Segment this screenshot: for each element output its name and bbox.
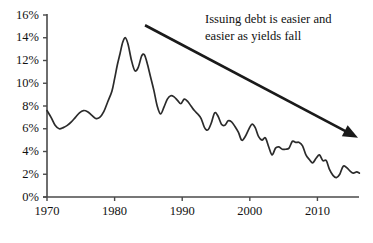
x-axis-tick-label: 1970 <box>17 205 77 218</box>
x-axis-tick-label: 2010 <box>287 205 347 218</box>
y-axis-tick-label: 14% <box>0 31 39 44</box>
annotation-label: Issuing debt is easier and easier as yie… <box>205 11 373 44</box>
annotation-line-2: easier as yields fall <box>205 28 373 45</box>
y-axis-tick-label: 16% <box>0 9 39 22</box>
x-axis-tick-label: 2000 <box>220 205 280 218</box>
x-axis-tick-label: 1980 <box>85 205 145 218</box>
y-axis-tick-label: 10% <box>0 77 39 90</box>
y-axis-tick-label: 8% <box>0 100 39 113</box>
y-axis-tick-label: 4% <box>0 145 39 158</box>
annotation-line-1: Issuing debt is easier and <box>205 11 373 28</box>
y-axis-tick-label: 6% <box>0 122 39 135</box>
y-axis-tick-label: 0% <box>0 191 39 204</box>
y-axis-tick-label: 12% <box>0 54 39 67</box>
y-axis-tick-label: 2% <box>0 168 39 181</box>
x-axis-tick-label: 1990 <box>152 205 212 218</box>
yield-series-line <box>47 38 359 178</box>
yield-chart: 0%2%4%6%8%10%12%14%16% 19701980199020002… <box>0 0 373 243</box>
